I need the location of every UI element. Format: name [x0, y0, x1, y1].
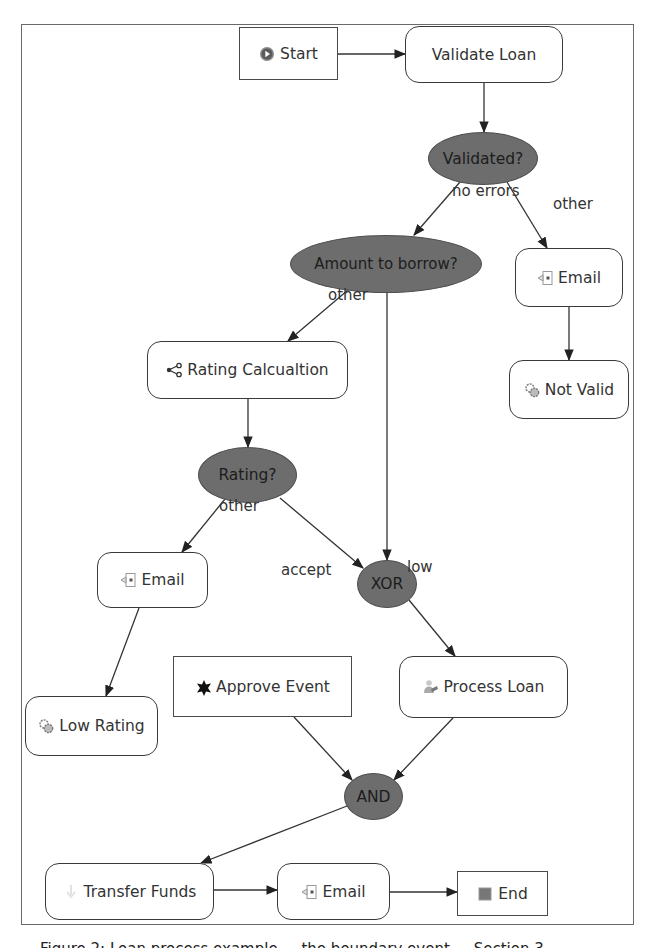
node-amount[interactable]: Amount to borrow? [290, 235, 482, 293]
node-label: Process Loan [444, 678, 545, 696]
node-label: XOR [371, 575, 404, 593]
node-validated[interactable]: Validated? [428, 132, 538, 185]
edge-approve-event-to-and[interactable] [294, 717, 352, 780]
node-start[interactable]: Start [239, 27, 338, 80]
node-transfer-funds[interactable]: Transfer Funds [45, 863, 214, 920]
user-task-icon [423, 679, 439, 695]
node-label: End [498, 885, 527, 903]
email-icon [120, 572, 136, 588]
node-rating-calc[interactable]: Rating Calcualtion [147, 341, 348, 399]
play-circle-icon [259, 46, 275, 62]
node-label: Approve Event [216, 678, 330, 696]
gears-icon [38, 718, 54, 734]
node-label: Rating? [218, 466, 276, 484]
share-icon [166, 362, 182, 378]
node-label: Not Valid [545, 381, 614, 399]
node-label: Transfer Funds [84, 883, 197, 901]
node-label: AND [356, 788, 390, 806]
node-approve-event[interactable]: Approve Event [173, 656, 352, 717]
node-process-loan[interactable]: Process Loan [399, 656, 568, 718]
edge-rating-to-xor[interactable] [280, 498, 363, 568]
node-label: Low Rating [59, 717, 144, 735]
node-validate-loan[interactable]: Validate Loan [405, 26, 563, 83]
edge-label: other [328, 286, 368, 304]
node-low-rating[interactable]: Low Rating [25, 696, 158, 756]
node-label: Email [322, 883, 365, 901]
star-burst-icon [195, 679, 211, 695]
transfer-icon [63, 884, 79, 900]
node-label: Email [558, 269, 601, 287]
node-label: Email [141, 571, 184, 589]
edge-label: other [219, 497, 259, 515]
node-not-valid[interactable]: Not Valid [509, 360, 629, 419]
node-label: Start [280, 45, 318, 63]
email-icon [301, 884, 317, 900]
edge-label: other [553, 195, 593, 213]
edge-email-low-to-low-rating[interactable] [106, 608, 139, 696]
figure-caption: Figure 2: Loan process example ... the b… [40, 940, 563, 948]
edge-label: no errors [452, 182, 520, 200]
edge-layer [0, 0, 651, 948]
gears-icon [524, 382, 540, 398]
node-label: Validate Loan [432, 46, 537, 64]
edge-label: accept [281, 561, 331, 579]
node-label: Amount to borrow? [314, 255, 457, 273]
edge-and-to-transfer-funds[interactable] [201, 806, 347, 863]
node-end[interactable]: End [457, 871, 548, 916]
email-icon [537, 270, 553, 286]
node-rating[interactable]: Rating? [198, 447, 297, 503]
node-email-invalid[interactable]: Email [515, 248, 623, 307]
node-email-final[interactable]: Email [277, 863, 390, 920]
node-and[interactable]: AND [344, 773, 403, 820]
stop-square-icon [477, 886, 493, 902]
edge-label: low [407, 558, 433, 576]
node-label: Rating Calcualtion [187, 361, 328, 379]
node-email-low[interactable]: Email [97, 552, 208, 608]
edge-process-loan-to-and[interactable] [394, 718, 453, 780]
edge-xor-to-process-loan[interactable] [409, 600, 455, 656]
node-label: Validated? [443, 150, 524, 168]
diagram-canvas: StartValidate LoanValidated?Amount to bo… [0, 0, 651, 948]
